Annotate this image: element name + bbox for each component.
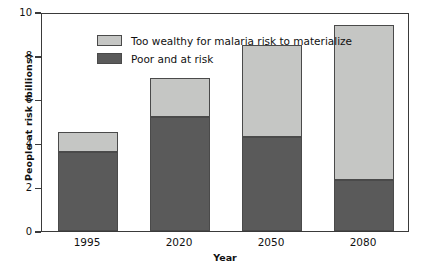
bar-segment-wealthy-2020[interactable] (150, 78, 210, 117)
y-tick-label: 2 (26, 182, 32, 193)
y-tick-label: 4 (26, 138, 32, 149)
legend-swatch-0 (97, 35, 122, 46)
bar-segment-poor-2080[interactable] (334, 180, 394, 231)
bar-2050[interactable] (242, 45, 302, 231)
plot-area: Too wealthy for malaria risk to material… (41, 13, 409, 232)
y-tick-label: 10 (19, 7, 32, 18)
stacked-bar-chart-figure: People at risk (billions) 0246810 Too we… (0, 0, 422, 277)
legend-swatch-1 (97, 53, 122, 64)
bar-segment-poor-2020[interactable] (150, 117, 210, 231)
bar-segment-poor-1995[interactable] (58, 152, 118, 231)
legend-label-0: Too wealthy for malaria risk to material… (131, 35, 352, 47)
y-tick-label: 8 (26, 50, 32, 61)
x-tick-label-2080: 2080 (323, 236, 403, 248)
bar-segment-wealthy-1995[interactable] (58, 132, 118, 152)
y-tick-label: 0 (26, 226, 32, 237)
x-tick-label-2020: 2020 (139, 236, 219, 248)
legend-item-0[interactable]: Too wealthy for malaria risk to material… (97, 32, 397, 49)
legend-item-1[interactable]: Poor and at risk (97, 50, 397, 67)
x-axis-title: Year (41, 252, 409, 263)
bar-1995[interactable] (58, 132, 118, 231)
x-tick-label-1995: 1995 (47, 236, 127, 248)
bar-2020[interactable] (150, 78, 210, 231)
legend-label-1: Poor and at risk (131, 53, 213, 65)
x-tick-label-2050: 2050 (231, 236, 311, 248)
chart-legend: Too wealthy for malaria risk to material… (97, 32, 397, 68)
y-tick-label: 6 (26, 94, 32, 105)
bar-segment-poor-2050[interactable] (242, 137, 302, 231)
